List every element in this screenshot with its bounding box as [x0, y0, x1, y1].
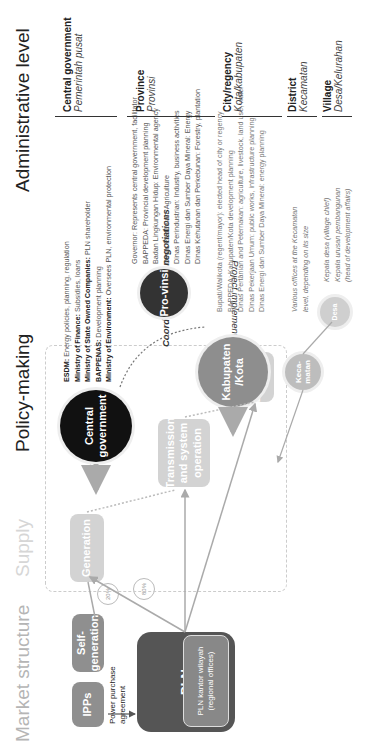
diagram-stage: Market structure Supply Policy-making Ad…	[0, 0, 374, 752]
connector-arrows	[0, 0, 374, 752]
